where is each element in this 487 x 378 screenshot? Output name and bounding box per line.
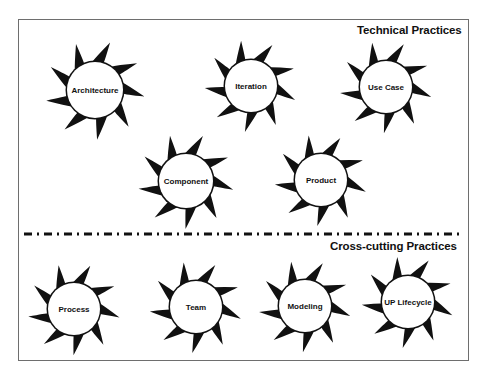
practice-label-team: Team: [186, 303, 206, 312]
practice-label-use-case: Use Case: [368, 83, 404, 92]
practice-label-product: Product: [306, 176, 336, 185]
practice-label-iteration: Iteration: [235, 82, 267, 91]
practice-label-modeling: Modeling: [287, 302, 322, 311]
practice-label-process: Process: [58, 305, 89, 314]
practice-label-architecture: Architecture: [71, 86, 118, 95]
practice-label-up-lifecycle: UP Lifecycle: [384, 298, 431, 307]
practice-label-component: Component: [164, 177, 208, 186]
diagram-canvas: [0, 0, 487, 378]
